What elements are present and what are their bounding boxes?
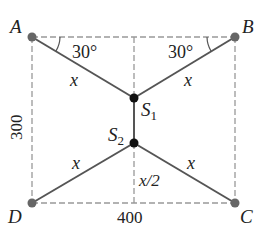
dimension-width: 400: [117, 208, 143, 226]
angle-arc-right: [207, 37, 211, 51]
segment-label-half: x/2: [138, 171, 160, 190]
point-C-dot: [231, 199, 240, 208]
rectangle-string-diagram: A B C D S1 S2 30° 30° x x x x x/2 300 40…: [0, 0, 262, 226]
angle-label-right: 30°: [168, 42, 193, 62]
angle-arc-left: [56, 37, 60, 51]
label-D: D: [7, 206, 22, 226]
string-D-S2: [32, 143, 134, 203]
label-B: B: [242, 16, 254, 37]
label-S1-sub: 1: [151, 108, 158, 123]
label-C: C: [240, 206, 253, 226]
strings: [32, 37, 235, 203]
label-S1-main: S: [141, 99, 151, 120]
point-D-dot: [28, 199, 37, 208]
segment-label-CS2: x: [186, 153, 195, 173]
segment-label-DS2: x: [71, 153, 80, 173]
angle-label-left: 30°: [72, 42, 97, 62]
node-S1-dot: [130, 94, 139, 103]
label-S2: S2: [108, 124, 124, 148]
label-S2-main: S: [108, 124, 118, 145]
segment-label-AS1: x: [69, 70, 78, 90]
dimension-height: 300: [7, 115, 26, 141]
point-A-dot: [28, 33, 37, 42]
label-S2-sub: 2: [118, 133, 125, 148]
label-A: A: [8, 16, 22, 37]
point-B-dot: [231, 33, 240, 42]
label-S1: S1: [141, 99, 157, 123]
node-S2-dot: [130, 139, 139, 148]
segment-label-BS1: x: [183, 70, 192, 90]
